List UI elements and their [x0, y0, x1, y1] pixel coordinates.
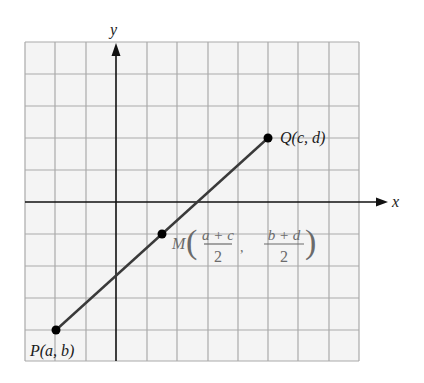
midpoint-y-numerator: b + d — [268, 227, 301, 243]
close-paren: ) — [305, 223, 316, 261]
open-paren: ( — [186, 223, 197, 261]
point-q-label: Q(c, d) — [280, 129, 325, 147]
midpoint-name: M — [171, 235, 187, 252]
point-p — [52, 326, 61, 335]
midpoint-x-numerator: a + c — [202, 227, 234, 243]
midpoint-separator: , — [240, 240, 244, 255]
point-p-label: P(a, b) — [29, 342, 74, 360]
x-axis-label: x — [391, 193, 399, 210]
y-axis-label: y — [108, 21, 118, 39]
point-q — [264, 134, 273, 143]
x-axis-arrow-icon — [376, 198, 388, 207]
midpoint-x-denominator: 2 — [214, 248, 222, 265]
coordinate-plane: x y P(a, b) Q(c, d) M ( a + c 2 , b + d … — [0, 0, 424, 383]
midpoint-y-denominator: 2 — [280, 248, 288, 265]
point-m — [158, 230, 167, 239]
